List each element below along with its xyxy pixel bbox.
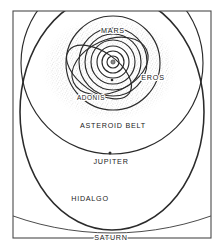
inner-planet-marker bbox=[111, 79, 114, 82]
label-adonis: ADONIS bbox=[77, 94, 105, 101]
label-jupiter: JUPITER bbox=[93, 157, 128, 166]
orbit-diagram-svg: MARS EROS ADONIS ASTEROID BELT JUPITER H… bbox=[0, 0, 224, 249]
label-asteroid-belt: ASTEROID BELT bbox=[80, 121, 146, 130]
label-eros: EROS bbox=[141, 73, 164, 82]
label-mars: MARS bbox=[101, 26, 125, 35]
sun-marker bbox=[111, 60, 115, 64]
jupiter-marker bbox=[109, 152, 112, 155]
label-hidalgo: HIDALGO bbox=[71, 194, 109, 203]
orbit-diagram-figure: MARS EROS ADONIS ASTEROID BELT JUPITER H… bbox=[0, 0, 224, 249]
label-saturn: SATURN bbox=[94, 233, 128, 242]
